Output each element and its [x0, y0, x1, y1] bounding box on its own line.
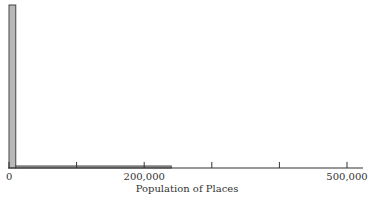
x-tick-label: 500,000: [326, 171, 367, 182]
x-tick-label: 0: [6, 171, 12, 182]
histogram-chart: 0200,000500,000 Population of Places: [0, 0, 370, 197]
x-axis-title: Population of Places: [136, 183, 239, 194]
histogram-bars: [9, 5, 171, 168]
x-axis-tick-labels: 0200,000500,000: [6, 171, 368, 182]
histogram-bar: [9, 5, 16, 168]
x-tick-label: 200,000: [124, 171, 165, 182]
